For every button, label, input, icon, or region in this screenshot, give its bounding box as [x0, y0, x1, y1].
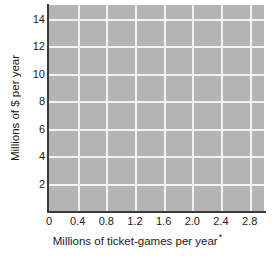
x-axis-tick-label: 2.0: [177, 215, 207, 228]
x-axis-tick-label: 0: [34, 215, 64, 228]
gridline-horizontal: [49, 46, 264, 48]
x-axis-tick-label: 2.4: [206, 215, 236, 228]
gridline-horizontal: [49, 74, 264, 76]
gridline-vertical: [192, 5, 194, 211]
gridline-vertical: [221, 5, 223, 211]
x-axis-title-text: Millions of ticket-games per year: [53, 235, 218, 247]
x-axis-tick-label: 0.4: [63, 215, 93, 228]
gridline-horizontal: [49, 19, 264, 21]
plot-area: [49, 5, 264, 211]
y-axis-title-text: Millions of $ per year: [9, 55, 21, 161]
gridline-vertical: [250, 5, 252, 211]
gridline-horizontal: [49, 156, 264, 158]
x-axis-tick-label: 1.6: [149, 215, 179, 228]
chart-figure: 2468101214 00.40.81.21.62.02.42.8 Millio…: [0, 0, 275, 261]
x-axis-tick-labels: 00.40.81.21.62.02.42.8: [0, 215, 275, 231]
y-axis-line: [47, 4, 49, 213]
gridline-vertical: [135, 5, 137, 211]
x-axis-tick-label: 1.2: [120, 215, 150, 228]
x-axis-tick-label: 2.8: [235, 215, 265, 228]
gridline-vertical: [164, 5, 166, 211]
gridline-horizontal: [49, 184, 264, 186]
gridline-horizontal: [49, 101, 264, 103]
x-axis-title: Millions of ticket-games per year*: [0, 232, 275, 247]
gridline-vertical: [78, 5, 80, 211]
gridline-horizontal: [49, 129, 264, 131]
x-axis-line: [47, 211, 266, 213]
y-axis-title: Millions of $ per year: [9, 5, 21, 211]
x-axis-tick-label: 0.8: [91, 215, 121, 228]
footnote-asterisk-icon: *: [219, 232, 223, 242]
gridline-vertical: [106, 5, 108, 211]
